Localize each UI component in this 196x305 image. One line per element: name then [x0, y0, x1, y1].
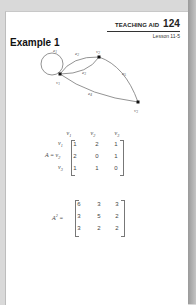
a-cell-1-0: 2: [69, 153, 81, 159]
a-cell-2-0: 1: [69, 165, 81, 171]
col-header-v3: v3: [111, 130, 123, 138]
sq-cell-1-2: 2: [111, 213, 123, 219]
sq-cell-1-1: 5: [93, 213, 105, 219]
row-header-v3: v3: [58, 164, 63, 172]
sq-cell-2-0: 3: [73, 225, 85, 231]
sq-cell-1-0: 3: [73, 213, 85, 219]
sq-cell-2-2: 2: [111, 225, 123, 231]
a-cell-1-1: 0: [91, 153, 103, 159]
sq-cell-0-1: 3: [93, 201, 105, 207]
a-cell-1-2: 1: [110, 153, 122, 159]
a-cell-2-2: 0: [110, 165, 122, 171]
a-squared-label: A2 =: [52, 213, 63, 221]
a-cell-0-1: 2: [91, 141, 103, 147]
row-header-v2: A = v2: [45, 152, 60, 160]
col-header-v2: v2: [87, 130, 99, 138]
a-cell-0-2: 1: [110, 141, 122, 147]
sq-cell-2-1: 2: [93, 225, 105, 231]
a-cell-0-0: 1: [69, 141, 81, 147]
a-cell-2-1: 1: [91, 165, 103, 171]
sq-cell-0-2: 3: [111, 201, 123, 207]
sq-cell-0-0: 6: [73, 201, 85, 207]
row-header-v1: v1: [58, 140, 63, 148]
col-header-v1: v1: [63, 130, 75, 138]
